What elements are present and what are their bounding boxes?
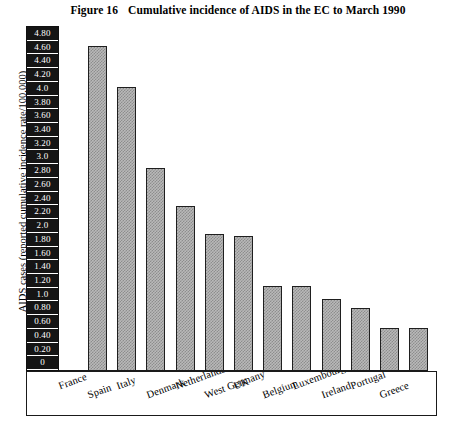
y-axis-tick: 0.60 (27, 315, 58, 329)
y-axis-tick: 1.20 (27, 274, 58, 288)
y-axis-tick: 0.20 (27, 343, 58, 357)
bar (409, 328, 428, 371)
y-axis-tick: 2.20 (27, 205, 58, 219)
y-axis-tick: 4.20 (27, 68, 58, 82)
y-axis-tick: 1.40 (27, 260, 58, 274)
bar (234, 236, 253, 371)
bar (88, 46, 107, 371)
y-axis-tick: 0 (27, 356, 58, 370)
bar (117, 87, 136, 371)
y-axis-tick: 3.80 (27, 96, 58, 110)
y-axis-tick: 1.80 (27, 233, 58, 247)
y-axis-tick: 0.40 (27, 329, 58, 343)
x-axis-label: Italy (115, 374, 137, 391)
x-axis-label-box: FranceSpainItalyDenmarkNetherlandsWest G… (26, 371, 437, 416)
plot-area (59, 26, 471, 371)
bar-chart: AIDS cases (reported cumulative incidenc… (0, 0, 476, 433)
y-axis-tick: 4.60 (27, 41, 58, 55)
bar (176, 206, 195, 371)
y-axis-tick: 3.0 (27, 150, 58, 164)
bar (292, 286, 311, 371)
x-axis-label: Spain (86, 382, 113, 401)
y-axis-tick: 2.60 (27, 178, 58, 192)
y-axis-tick: 3.20 (27, 137, 58, 151)
y-axis-tick: 1.0 (27, 288, 58, 302)
bar (263, 286, 282, 371)
bar (205, 234, 224, 371)
x-axis-label: Ireland (320, 380, 352, 401)
y-axis-tick-labels: 4.804.604.404.204.03.803.603.403.203.02.… (26, 26, 59, 371)
y-axis-tick: 2.0 (27, 219, 58, 233)
y-axis-tick: 2.40 (27, 192, 58, 206)
y-axis-tick: 2.80 (27, 164, 58, 178)
y-axis-tick: 3.40 (27, 123, 58, 137)
y-axis-tick: 3.60 (27, 109, 58, 123)
y-axis-tick: 4.40 (27, 54, 58, 68)
bar (380, 328, 399, 371)
x-axis-label: Greece (378, 380, 410, 401)
y-axis-tick: 0.80 (27, 301, 58, 315)
bar (351, 308, 370, 371)
y-axis-tick: 4.80 (27, 27, 58, 41)
y-axis-tick: 4.0 (27, 82, 58, 96)
x-axis-label: France (57, 371, 88, 391)
bar (322, 299, 341, 371)
bar (146, 168, 165, 371)
y-axis-tick: 1.60 (27, 247, 58, 261)
